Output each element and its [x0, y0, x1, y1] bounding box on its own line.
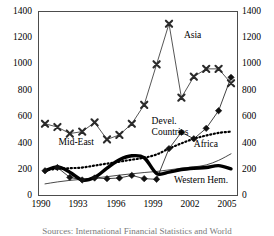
data-point-marker [141, 175, 147, 181]
series-canvas [39, 12, 237, 195]
y-axis-right-tick-600: 600 [242, 112, 274, 122]
x-axis-tick-1996: 1996 [96, 200, 136, 210]
series-label-devel-countries: Devel. Countries [152, 116, 212, 138]
y-axis-right-tick-200: 200 [242, 165, 274, 175]
y-axis-left-tick-400: 400 [0, 139, 32, 149]
y-axis-left-tick-600: 600 [0, 112, 32, 122]
y-axis-right-tick-1200: 1200 [242, 33, 274, 43]
data-point-marker [54, 124, 60, 130]
plot-area [38, 11, 238, 196]
data-point-marker [116, 132, 122, 138]
x-axis-tick-1999: 1999 [133, 200, 173, 210]
y-axis-left-tick-1000: 1000 [0, 59, 32, 69]
data-point-marker [104, 136, 110, 142]
series-label-africa: Africa [194, 139, 218, 150]
figure-caption: Sources: International Financial Statist… [0, 226, 274, 236]
data-point-marker [42, 121, 48, 127]
data-point-marker [92, 119, 98, 125]
data-point-marker [154, 61, 160, 67]
y-axis-right-tick-400: 400 [242, 139, 274, 149]
data-point-marker [153, 176, 159, 182]
chart-figure: 1400 1200 1000 800 600 400 200 0 1400 12… [0, 0, 274, 236]
data-point-marker [129, 172, 135, 178]
y-axis-left-tick-200: 200 [0, 165, 32, 175]
series-label-asia: Asia [184, 30, 201, 41]
x-axis-tick-2005: 2005 [207, 200, 247, 210]
series-label-western-hem: Western Hem. [174, 175, 228, 186]
y-axis-left-tick-800: 800 [0, 86, 32, 96]
series-label-mid-east: Mid-East [59, 137, 94, 148]
x-axis-tick-2002: 2002 [170, 200, 210, 210]
y-axis-right-tick-800: 800 [242, 86, 274, 96]
data-point-marker [166, 145, 172, 151]
data-point-marker [129, 121, 135, 127]
data-point-marker [191, 74, 197, 80]
data-point-marker [141, 102, 147, 108]
data-point-marker [215, 107, 221, 113]
x-axis-tick-1990: 1990 [21, 200, 61, 210]
y-axis-left-tick-1400: 1400 [0, 7, 32, 17]
y-axis-left-tick-1200: 1200 [0, 33, 32, 43]
x-axis-tick-1993: 1993 [58, 200, 98, 210]
y-axis-right-tick-1400: 1400 [242, 7, 274, 17]
y-axis-right-tick-1000: 1000 [242, 59, 274, 69]
